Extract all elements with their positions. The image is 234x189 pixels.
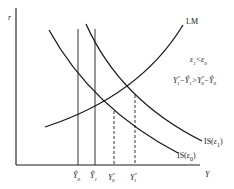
y-axis-label: r: [8, 14, 11, 22]
tick-y-star-0: Y*0: [108, 172, 114, 183]
condition-epsilon: ε1<ε0: [190, 56, 207, 66]
is-eps0-curve: [49, 30, 178, 153]
diagram-graphics: [0, 0, 234, 189]
lm-label: LM: [186, 18, 198, 26]
is-lm-diagram: r Y LM IS(ε1) IS(ε0) ε1<ε0 Y*1−Ŷ1>Y*0−Ŷ0…: [0, 0, 234, 189]
tick-y-star-1: Y*1: [130, 172, 136, 183]
tick-y-hat-0: Ŷ0: [73, 172, 80, 182]
condition-output-gap: Y*1−Ŷ1>Y*0−Ŷ0: [173, 75, 216, 86]
tick-y-hat-1: Ŷ1: [90, 172, 97, 182]
is-eps1-label: IS(ε1): [204, 138, 223, 148]
x-axis-label: Y: [205, 171, 209, 179]
is-eps0-label: IS(ε0): [177, 152, 196, 162]
